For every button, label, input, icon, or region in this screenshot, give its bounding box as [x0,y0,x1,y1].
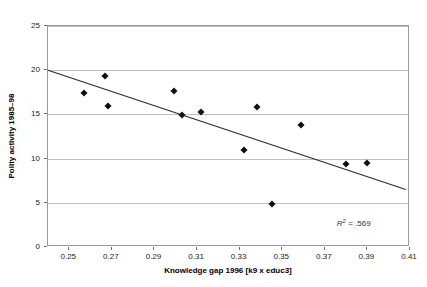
trendline-layer [48,26,410,247]
x-axis-tick-mark [68,247,69,250]
y-axis-tick-label: 25 [16,21,40,30]
y-axis-tick-label: 10 [16,153,40,162]
y-axis-tick-mark [44,158,47,159]
x-axis-tick-mark [281,247,282,250]
regression-trendline [48,70,406,189]
y-axis-tick-mark [44,69,47,70]
x-axis-tick-label: 0.35 [273,252,289,261]
x-axis-tick-mark [366,247,367,250]
x-axis-tick-mark [239,247,240,250]
y-axis-tick-label: 0 [16,242,40,251]
y-axis-tick-mark [44,113,47,114]
x-axis-tick-label: 0.37 [316,252,332,261]
y-axis-tick-label: 20 [16,65,40,74]
x-axis-tick-mark [111,247,112,250]
x-axis-tick-label: 0.31 [188,252,204,261]
y-axis-tick-mark [44,25,47,26]
r-squared-annotation: R2 = .569 [337,218,371,229]
y-axis-tick-mark [44,246,47,247]
x-axis-tick-label: 0.29 [146,252,162,261]
x-axis-tick-label: 0.25 [60,252,76,261]
x-axis-tick-mark [196,247,197,250]
x-axis-title: Knowledge gap 1996 [k9 x educ3] [47,266,409,275]
x-axis-tick-mark [153,247,154,250]
x-axis-tick-mark [324,247,325,250]
x-axis-tick-mark [409,247,410,250]
y-axis-tick-mark [44,202,47,203]
r2-equals: = [346,219,355,228]
y-axis-title: Polity activity 1985–98 [7,93,16,178]
x-axis-tick-label: 0.33 [231,252,247,261]
x-axis-tick-label: 0.27 [103,252,119,261]
y-axis-tick-label: 5 [16,197,40,206]
y-axis-tick-label: 15 [16,109,40,118]
x-axis-tick-label: 0.41 [401,252,417,261]
plot-area [47,25,409,246]
r2-value: .569 [355,219,371,228]
x-axis-tick-label: 0.39 [359,252,375,261]
scatter-chart: 0510152025 0.250.270.290.310.330.350.370… [0,0,427,287]
